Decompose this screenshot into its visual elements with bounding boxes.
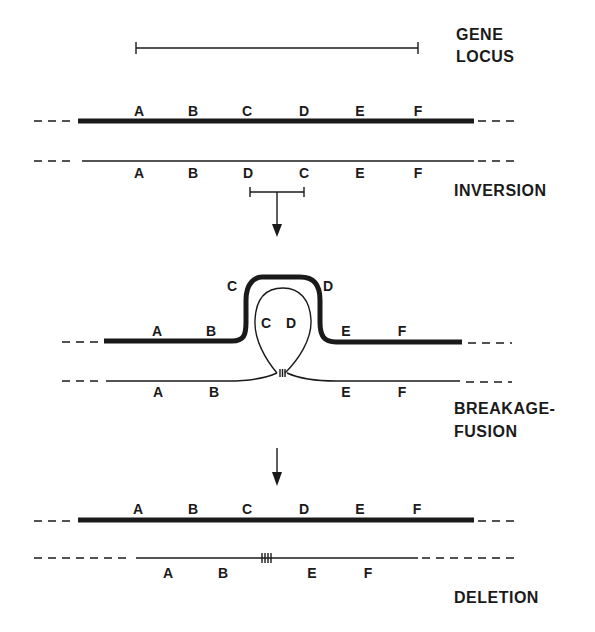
gene-label: A: [134, 103, 144, 119]
gene-label: F: [364, 565, 373, 581]
gene-label: E: [341, 323, 350, 339]
inverted-labels: A B D C E F: [134, 165, 423, 181]
normal-top-labels: A B C D E F: [134, 103, 423, 119]
gene-label: D: [286, 315, 296, 331]
gene-label: F: [413, 501, 422, 517]
gene-label: A: [153, 384, 163, 400]
gene-label: B: [218, 565, 228, 581]
stage-label-breakage: BREAKAGE-: [454, 400, 555, 417]
gene-label: B: [206, 323, 216, 339]
gene-label: F: [398, 323, 407, 339]
fusion-point-ticks: [280, 369, 285, 377]
gene-label: E: [355, 165, 364, 181]
normal-chromosome-bottom: [34, 520, 516, 521]
stage-label-deletion: DELETION: [454, 589, 539, 606]
gene-label: E: [307, 565, 316, 581]
gene-label: A: [163, 565, 173, 581]
gene-label: F: [414, 165, 423, 181]
gene-label: E: [355, 501, 364, 517]
gene-label: D: [299, 103, 309, 119]
gene-label: B: [188, 501, 198, 517]
gene-label: A: [134, 165, 144, 181]
stage-label-locus: LOCUS: [456, 48, 515, 65]
gene-label: C: [299, 165, 309, 181]
deleted-labels: A B E F: [163, 565, 373, 581]
inversion-deletion-diagram: GENE LOCUS A B C D E F A B D C E F INVER…: [0, 0, 595, 632]
arrow-down-icon: [272, 192, 282, 237]
gene-label: C: [242, 103, 252, 119]
gene-label: C: [242, 501, 252, 517]
gene-label: E: [341, 384, 350, 400]
loop-thick-chromosome: [62, 277, 512, 343]
gene-label: B: [188, 165, 198, 181]
final-normal-labels: A B C D E F: [133, 501, 422, 517]
gene-label: D: [299, 501, 309, 517]
stage-label-inversion: INVERSION: [454, 182, 547, 199]
gene-label: F: [398, 384, 407, 400]
loop-thin-chromosome: [62, 373, 512, 382]
gene-label: A: [133, 501, 143, 517]
gene-label: D: [323, 278, 333, 294]
gene-label: F: [414, 103, 423, 119]
gene-label: C: [261, 315, 271, 331]
gene-label: D: [243, 165, 253, 181]
stage-label-fusion: FUSION: [454, 423, 517, 440]
arrow-down-icon: [272, 448, 282, 486]
gene-label: A: [152, 323, 162, 339]
stage-label-gene: GENE: [456, 26, 503, 43]
gene-label: E: [355, 103, 364, 119]
gene-locus-bracket: [136, 42, 418, 54]
gene-label: B: [188, 103, 198, 119]
gene-label: B: [209, 384, 219, 400]
gene-label: C: [227, 278, 237, 294]
